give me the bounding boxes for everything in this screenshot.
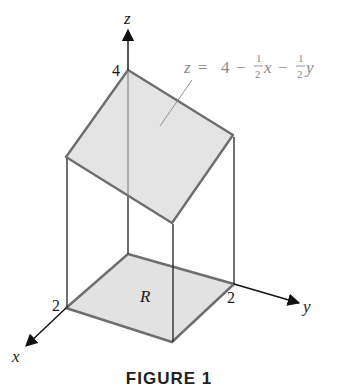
z-intercept-label: 4	[112, 62, 120, 79]
x-axis-arrow	[26, 308, 66, 346]
plane-equation: z = 4 − 1 2 x − 1 2 y	[183, 52, 314, 80]
equation-lhs: z	[183, 58, 191, 77]
solid-under-plane-diagram: z x y 4 2 2 R z = 4 − 1 2 x − 1 2 y	[0, 0, 338, 384]
x-tick-label: 2	[52, 297, 60, 314]
region-label: R	[139, 287, 151, 306]
figure-caption: FIGURE 1	[0, 369, 338, 384]
fraction-2-numerator: 1	[298, 52, 304, 64]
equation-equals: =	[198, 58, 208, 77]
equation-var-x: x	[263, 58, 272, 77]
equation-minus-2: −	[278, 58, 288, 77]
plane-surface	[66, 70, 233, 223]
y-tick-label: 2	[227, 289, 235, 306]
x-axis-label: x	[11, 347, 20, 366]
z-axis-label: z	[123, 9, 131, 28]
y-axis-label: y	[301, 297, 311, 316]
fraction-2-denominator: 2	[297, 68, 303, 80]
equation-constant: 4	[221, 58, 230, 77]
y-axis-arrow	[234, 284, 299, 303]
equation-minus-1: −	[236, 58, 246, 77]
equation-var-y: y	[304, 58, 314, 77]
fraction-1-denominator: 2	[255, 68, 261, 80]
fraction-1-numerator: 1	[256, 52, 262, 64]
